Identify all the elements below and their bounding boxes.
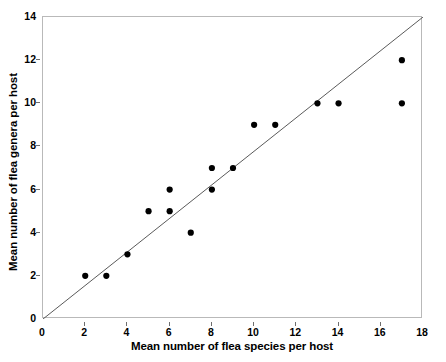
x-tick-mark [211,322,212,326]
x-tick-mark [253,322,254,326]
y-axis-tick-labels: 02468101214 [4,16,36,318]
y-tick-mark [36,145,40,146]
y-tick-label: 10 [6,97,36,107]
data-point [167,208,173,214]
data-point-markers [82,57,405,279]
data-point [335,100,341,106]
data-point [167,186,173,192]
y-tick-mark [36,59,40,60]
y-tick-mark [36,102,40,103]
x-tick-mark [84,322,85,326]
y-tick-label: 4 [6,227,36,237]
data-point [145,208,151,214]
y-tick-label: 6 [6,184,36,194]
x-tick-label: 10 [238,327,268,338]
data-point [209,165,215,171]
y-tick-label: 14 [6,11,36,21]
y-tick-label: 2 [6,270,36,280]
x-tick-label: 6 [154,327,184,338]
data-point [272,122,278,128]
x-tick-mark [169,322,170,326]
x-tick-label: 14 [323,327,353,338]
x-tick-label: 8 [196,327,226,338]
x-tick-mark [380,322,381,326]
data-point [230,165,236,171]
y-tick-label: 8 [6,140,36,150]
x-tick-label: 12 [280,327,310,338]
x-tick-label: 0 [27,327,57,338]
x-tick-label: 4 [111,327,141,338]
x-tick-mark [126,322,127,326]
data-point [251,122,257,128]
x-tick-label: 16 [365,327,395,338]
data-point [103,273,109,279]
x-tick-label: 18 [407,327,437,338]
data-point [124,251,130,257]
x-tick-mark [295,322,296,326]
x-axis-tick-labels: 024681012141618 [42,322,422,336]
scatter-plot-figure: Mean number of flea genera per host 0246… [0,0,446,362]
data-point [82,273,88,279]
y-tick-mark [36,275,40,276]
data-point [399,57,405,63]
data-point [314,100,320,106]
data-point [209,186,215,192]
data-point [399,100,405,106]
y-tick-mark [36,232,40,233]
y-tick-label: 0 [6,313,36,323]
y-tick-mark [36,189,40,190]
x-tick-mark [338,322,339,326]
x-axis-title: Mean number of flea species per host [42,340,422,352]
plot-area [42,16,422,318]
plot-canvas [43,17,423,319]
y-tick-label: 12 [6,54,36,64]
data-point [188,230,194,236]
x-tick-label: 2 [69,327,99,338]
